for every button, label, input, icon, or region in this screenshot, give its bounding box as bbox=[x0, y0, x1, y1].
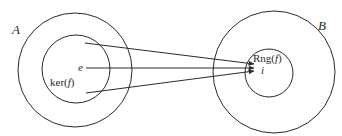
set-b-outer-circle bbox=[213, 11, 335, 133]
range-label: Rng(f) bbox=[253, 52, 282, 65]
kernel-range-diagram: A B e ker(f) Rng(f) i bbox=[0, 0, 342, 136]
range-prefix: Rng( bbox=[253, 52, 275, 65]
arrow-top bbox=[85, 43, 254, 64]
kernel-prefix: ker( bbox=[50, 76, 68, 89]
range-suffix: ) bbox=[278, 52, 282, 65]
kernel-suffix: ) bbox=[71, 76, 75, 89]
set-a-label: A bbox=[11, 22, 20, 37]
set-b-label: B bbox=[318, 18, 326, 33]
arrow-bottom bbox=[86, 71, 254, 93]
kernel-label: ker(f) bbox=[50, 76, 75, 89]
identity-b-label: i bbox=[261, 64, 264, 76]
set-a-outer-circle bbox=[18, 13, 132, 127]
identity-a-label: e bbox=[78, 61, 83, 73]
